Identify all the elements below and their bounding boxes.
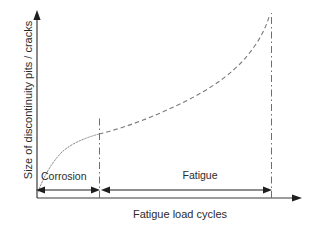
y-axis-arrowhead: [33, 10, 40, 20]
x-axis-label: Fatigue load cycles: [55, 208, 305, 220]
fatigue-crack-growth-figure: Size of discontinuity pits / cracks Fati…: [0, 0, 310, 232]
fatigue-region-label: Fatigue: [155, 169, 245, 181]
y-axis-label: Size of discontinuity pits / cracks: [22, 15, 34, 185]
corrosion-curve: [38, 134, 99, 192]
x-axis: [37, 194, 302, 201]
corrosion-region-label: Corrosion: [41, 170, 87, 182]
corrosion-span-arrow: [36, 186, 100, 193]
y-axis: [33, 10, 40, 198]
fatigue-span-arrow: [101, 186, 272, 193]
x-axis-arrowhead: [292, 194, 302, 201]
chart-canvas: [0, 0, 310, 232]
fatigue-curve: [99, 17, 269, 134]
